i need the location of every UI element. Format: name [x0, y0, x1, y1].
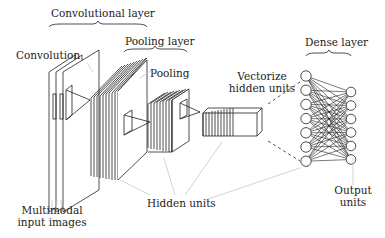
label-convolution: Convolution: [16, 49, 80, 61]
pooled-maps: [148, 89, 200, 152]
dense-output-node: [346, 141, 356, 151]
label-pooling: Pooling: [150, 67, 189, 79]
vectorize-connector-bottom: [268, 141, 300, 161]
dense-edge: [306, 106, 351, 162]
dense-output-node: [346, 155, 356, 165]
label-output-units: Output units: [333, 184, 373, 208]
label-pooling-layer: Pooling layer: [125, 35, 195, 47]
brace-dense-layer: [306, 50, 351, 56]
dense-output-node: [346, 128, 356, 138]
dense-input-node: [301, 142, 311, 152]
leader-hidden-3: [185, 142, 222, 195]
dense-output-node: [346, 87, 356, 97]
input-images: [49, 50, 99, 212]
dense-edge: [306, 160, 351, 162]
label-multimodal-input-images: Multimodal input images: [12, 204, 92, 228]
leader-hidden-1: [120, 180, 150, 195]
leader-hidden-4: [205, 168, 300, 200]
leader-hidden-2: [164, 158, 175, 195]
label-multimodal-line2: input images: [12, 216, 92, 228]
label-hidden-units: Hidden units: [147, 197, 216, 209]
dense-output-node: [346, 101, 356, 111]
label-vectorize-line1: Vectorize: [222, 70, 302, 82]
dense-connections: [306, 76, 351, 161]
label-convolutional-layer: Convolutional layer: [51, 7, 155, 19]
dense-input-node: [301, 99, 311, 109]
dense-input-node: [301, 71, 311, 81]
dense-input-node: [301, 128, 311, 138]
label-output-line1: Output: [333, 184, 373, 196]
dense-input-node: [301, 156, 311, 166]
conv-feature-maps: [91, 58, 150, 180]
label-vectorize: Vectorize hidden units: [222, 70, 302, 94]
label-dense-layer: Dense layer: [305, 36, 368, 48]
dense-input-node: [301, 113, 311, 123]
vectorized-units: [203, 108, 262, 136]
dense-output-node: [346, 114, 356, 124]
brace-convolutional-layer: [49, 21, 147, 27]
label-output-line2: units: [333, 196, 373, 208]
label-vectorize-line2: hidden units: [222, 82, 302, 94]
dense-input-node: [301, 85, 311, 95]
label-multimodal-line1: Multimodal: [12, 204, 92, 216]
